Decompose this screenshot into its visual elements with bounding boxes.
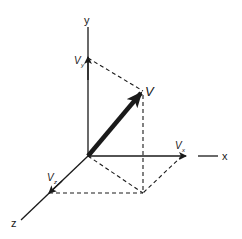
svg-text:z: z [53, 179, 57, 185]
vy-label: V y [74, 55, 85, 68]
x-axis-label: x [222, 150, 228, 162]
vx-label: V x [175, 140, 186, 153]
svg-text:x: x [181, 147, 186, 153]
vector-v-label: V [145, 84, 155, 99]
vector-diagram: y x z V V y V x V z [0, 0, 242, 239]
y-axis-label: y [84, 14, 90, 26]
z-axis-label: z [11, 217, 17, 229]
vector-v-arrow [88, 93, 141, 156]
svg-text:y: y [80, 62, 85, 68]
vz-label: V z [47, 172, 57, 185]
